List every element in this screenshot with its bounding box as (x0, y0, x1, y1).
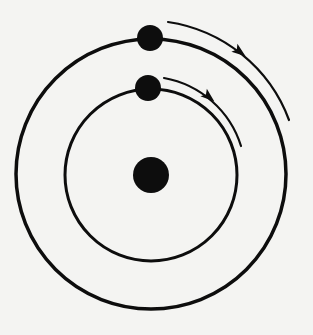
arrows-group (164, 22, 289, 146)
outer-orbit-direction-arrow (168, 22, 289, 120)
inner-orbit-direction-arrow (164, 78, 241, 146)
outer-satellite (137, 25, 163, 51)
bodies-group (133, 25, 169, 193)
inner-satellite (135, 75, 161, 101)
arrow-shaft (168, 22, 289, 120)
orbit-diagram (0, 0, 313, 335)
arrow-shaft (164, 78, 241, 146)
central-body (133, 157, 169, 193)
